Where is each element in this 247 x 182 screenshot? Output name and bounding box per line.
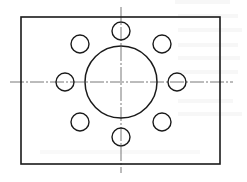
bolt-hole-bottom-right [153,113,171,131]
page-bleed-texture [40,0,242,154]
drawing-canvas [0,0,247,182]
bolt-hole-top-right [153,35,171,53]
bolt-hole-top-left [71,35,89,53]
plate-drawing [0,0,247,182]
bolt-hole-bottom-left [71,113,89,131]
plate-outline [21,17,220,164]
